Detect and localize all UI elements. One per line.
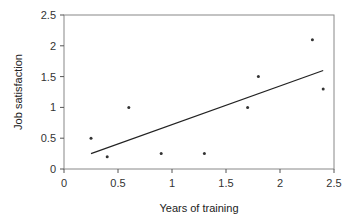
scatter-chart: 00.511.522.5 00.511.522.5 Years of train…: [0, 0, 358, 224]
x-axis: 00.511.522.5: [61, 169, 342, 189]
regression-line: [91, 70, 323, 153]
data-points: [90, 38, 325, 158]
y-tick-label: 2.5: [41, 9, 56, 21]
y-tick-label: 1: [50, 101, 56, 113]
data-point: [322, 87, 325, 90]
x-axis-title: Years of training: [159, 202, 238, 214]
x-tick-label: 0.5: [110, 177, 125, 189]
y-tick-label: 1.5: [41, 71, 56, 83]
data-point: [203, 152, 206, 155]
x-tick-label: 2.5: [326, 177, 341, 189]
data-point: [160, 152, 163, 155]
plot-frame: [64, 15, 334, 169]
data-point: [106, 155, 109, 158]
y-axis-title: Job satisfaction: [12, 54, 24, 130]
x-tick-label: 0: [61, 177, 67, 189]
x-tick-label: 1: [169, 177, 175, 189]
y-tick-label: 2: [50, 40, 56, 52]
data-point: [246, 106, 249, 109]
y-tick-label: 0.5: [41, 132, 56, 144]
y-axis: 00.511.522.5: [41, 9, 64, 175]
data-point: [90, 137, 93, 140]
x-tick-label: 2: [277, 177, 283, 189]
data-point: [257, 75, 260, 78]
y-tick-label: 0: [50, 163, 56, 175]
data-point: [311, 38, 314, 41]
data-point: [127, 106, 130, 109]
x-tick-label: 1.5: [218, 177, 233, 189]
